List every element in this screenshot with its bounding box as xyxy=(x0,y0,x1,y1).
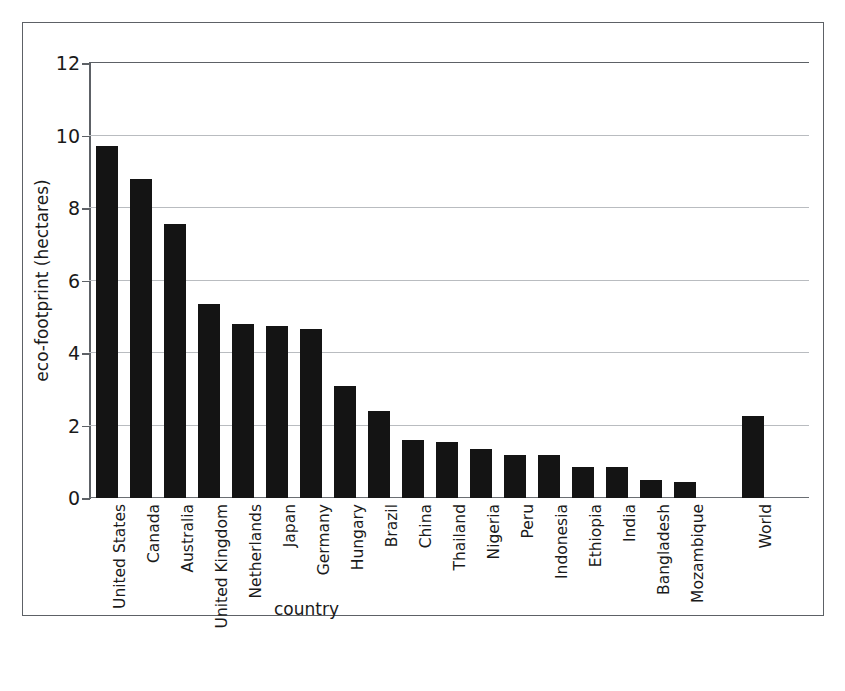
x-axis-label: Nigeria xyxy=(487,504,503,559)
y-tick-label: 12 xyxy=(56,54,80,73)
bar xyxy=(504,455,526,499)
y-tick-mark-4 xyxy=(82,353,90,355)
bar xyxy=(402,440,424,498)
x-axis-label: Brazil xyxy=(385,504,401,547)
y-tick-mark-12 xyxy=(82,63,90,65)
x-axis-label: Netherlands xyxy=(249,504,265,598)
plot-area xyxy=(89,63,809,498)
x-axis-label: Germany xyxy=(317,504,333,575)
y-tick-label: 2 xyxy=(68,416,80,435)
x-axis-label: Hungary xyxy=(351,504,367,570)
y-axis-title: eco-footprint (hectares) xyxy=(31,63,53,498)
gridline-10 xyxy=(89,135,809,136)
x-axis-label: Thailand xyxy=(453,504,469,571)
bar xyxy=(300,329,322,498)
bar xyxy=(266,326,288,498)
bar xyxy=(674,482,696,498)
bar xyxy=(640,480,662,498)
gridline-6 xyxy=(89,280,809,281)
x-axis-label: Japan xyxy=(283,504,299,547)
y-tick-label: 10 xyxy=(56,126,80,145)
x-axis-title: country xyxy=(89,601,524,618)
y-tick-label: 0 xyxy=(68,489,80,508)
bar xyxy=(436,442,458,498)
y-tick-mark-0 xyxy=(82,498,90,500)
bar xyxy=(164,224,186,498)
x-axis-label: Indonesia xyxy=(555,504,571,579)
bar xyxy=(572,467,594,498)
bar xyxy=(368,411,390,498)
y-tick-mark-2 xyxy=(82,426,90,428)
bar xyxy=(96,146,118,498)
x-axis-label: India xyxy=(623,504,639,542)
x-axis-label: Canada xyxy=(147,504,163,563)
y-tick-label: 6 xyxy=(68,271,80,290)
y-tick-mark-10 xyxy=(82,136,90,138)
bar xyxy=(130,179,152,498)
bar xyxy=(334,386,356,498)
gridline-4 xyxy=(89,352,809,353)
figure-frame: eco-footprint (hectares) 024681012 Unite… xyxy=(22,22,824,616)
x-axis-label: Mozambique xyxy=(691,504,707,603)
x-axis-label: World xyxy=(759,504,775,548)
bar xyxy=(232,324,254,498)
bar xyxy=(538,455,560,499)
x-axis-label: China xyxy=(419,504,435,548)
bar xyxy=(742,416,764,498)
bar xyxy=(470,449,492,498)
x-axis-label: United States xyxy=(113,504,129,609)
x-axis-label: Bangladesh xyxy=(657,504,673,595)
x-axis-label: Ethiopia xyxy=(589,504,605,567)
y-tick-mark-8 xyxy=(82,208,90,210)
gridline-12 xyxy=(89,62,809,64)
y-tick-label: 4 xyxy=(68,344,80,363)
x-axis-label: Peru xyxy=(521,504,537,539)
y-tick-mark-6 xyxy=(82,281,90,283)
gridline-2 xyxy=(89,425,809,426)
gridline-8 xyxy=(89,207,809,208)
y-tick-label: 8 xyxy=(68,199,80,218)
bar xyxy=(606,467,628,498)
bar xyxy=(198,304,220,498)
x-axis-label: Australia xyxy=(181,504,197,573)
